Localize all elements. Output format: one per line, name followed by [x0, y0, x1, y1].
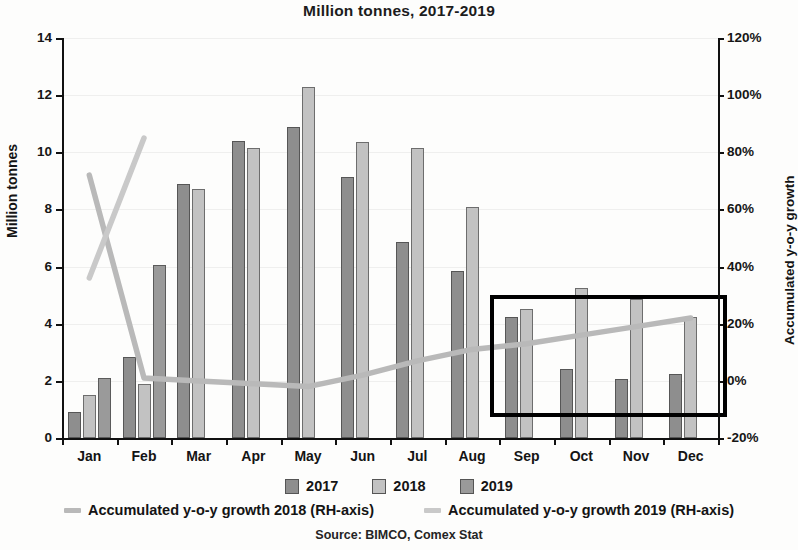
- x-axis-tick: [554, 438, 556, 445]
- x-axis-tick: [499, 438, 501, 445]
- y-axis-left-label: 4: [44, 317, 52, 331]
- x-axis-label: May: [294, 448, 321, 464]
- x-axis-tick: [609, 438, 611, 445]
- y-axis-left-label: 8: [44, 203, 52, 217]
- legend-lines: Accumulated y-o-y growth 2018 (RH-axis)A…: [0, 502, 798, 518]
- legend-item-2019[interactable]: 2019: [460, 478, 513, 494]
- legend-label: 2017: [306, 478, 338, 494]
- legend-label: Accumulated y-o-y growth 2019 (RH-axis): [448, 502, 734, 518]
- legend-swatch-icon: [372, 479, 386, 494]
- x-axis-label: Jan: [77, 448, 101, 464]
- x-axis-tick: [445, 438, 447, 445]
- legend-item-2017[interactable]: 2017: [285, 478, 338, 494]
- x-axis-tick: [62, 438, 64, 445]
- plot-area: 02468101214 -20%0%20%40%60%80%100%120% J…: [62, 38, 718, 438]
- legend-bars: 201720182019: [0, 478, 798, 494]
- x-axis-tick: [663, 438, 665, 445]
- y-axis-right-label: 40%: [727, 260, 754, 274]
- legend-line-icon: [64, 508, 81, 513]
- y-axis-right-label: 60%: [727, 203, 754, 217]
- y-axis-left-line: [62, 38, 64, 438]
- x-axis-label: Jun: [350, 448, 375, 464]
- y-axis-left-label: 10: [37, 146, 52, 160]
- x-axis-tick: [718, 438, 720, 445]
- y-axis-right-label: 80%: [727, 146, 754, 160]
- y-axis-left-label: 14: [37, 31, 52, 45]
- legend-line-icon: [424, 508, 441, 513]
- y-axis-left-label: 0: [44, 431, 52, 445]
- x-axis-tick: [171, 438, 173, 445]
- y-axis-right-label: 0%: [727, 374, 747, 388]
- legend-item-2018[interactable]: 2018: [372, 478, 425, 494]
- legend-swatch-icon: [460, 479, 474, 494]
- x-axis-label: Feb: [132, 448, 157, 464]
- x-axis-tick: [390, 438, 392, 445]
- source-note: Source: BIMCO, Comex Stat: [0, 528, 798, 542]
- x-axis-label: Apr: [241, 448, 265, 464]
- legend-swatch-icon: [285, 479, 299, 494]
- legend-label: Accumulated y-o-y growth 2018 (RH-axis): [88, 502, 374, 518]
- x-axis-label: Nov: [623, 448, 649, 464]
- plot-inner: 02468101214 -20%0%20%40%60%80%100%120% J…: [62, 38, 718, 438]
- legend-item-line[interactable]: Accumulated y-o-y growth 2019 (RH-axis): [424, 502, 734, 518]
- y-axis-right-line: [718, 38, 720, 438]
- legend-item-line[interactable]: Accumulated y-o-y growth 2018 (RH-axis): [64, 502, 374, 518]
- y-axis-right-label: 20%: [727, 317, 754, 331]
- x-axis-tick: [226, 438, 228, 445]
- highlight-box-annotation: [490, 295, 727, 416]
- x-axis-tick: [335, 438, 337, 445]
- y-axis-right-label: 120%: [727, 31, 762, 45]
- x-axis-tick: [281, 438, 283, 445]
- x-axis-label: Mar: [186, 448, 211, 464]
- y-axis-right-label: 100%: [727, 88, 762, 102]
- x-axis-label: Oct: [570, 448, 593, 464]
- y-axis-right-title: Accumulated y-o-y growth: [782, 175, 797, 345]
- legend-label: 2018: [393, 478, 425, 494]
- x-axis-label: Sep: [514, 448, 540, 464]
- y-axis-left-label: 12: [37, 88, 52, 102]
- y-axis-right-label: -20%: [727, 431, 759, 445]
- x-axis-tick: [117, 438, 119, 445]
- y-axis-left-title: Million tonnes: [4, 144, 20, 238]
- x-axis-label: Aug: [458, 448, 485, 464]
- legend-label: 2019: [481, 478, 513, 494]
- x-axis-label: Jul: [407, 448, 427, 464]
- y-axis-left-label: 2: [44, 374, 52, 388]
- y-axis-left-label: 6: [44, 260, 52, 274]
- chart-root: Million tonnes, 2017-2019 Million tonnes…: [0, 0, 798, 550]
- chart-title: Million tonnes, 2017-2019: [0, 2, 798, 20]
- x-axis-label: Dec: [678, 448, 704, 464]
